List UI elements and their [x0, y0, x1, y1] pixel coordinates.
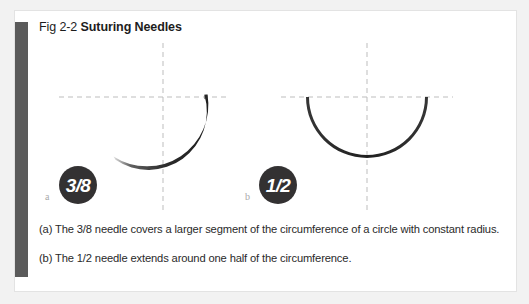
needle-b-group	[281, 43, 453, 211]
badge-three-eighths: 3/8	[59, 166, 97, 204]
caption-b: (b) The 1/2 needle extends around one ha…	[39, 252, 501, 264]
badge-one-half: 1/2	[259, 166, 297, 204]
figure-captions: (a) The 3/8 needle covers a larger segme…	[39, 223, 501, 282]
figure-sublabel-b: b	[245, 191, 250, 202]
figure-panel: Fig 2-2 Suturing Needles	[14, 10, 517, 292]
badge-b-label: 1/2	[266, 176, 291, 195]
needle-a-arc	[114, 95, 209, 170]
needle-a-swage-end	[204, 94, 208, 99]
figure-sublabel-a: a	[45, 191, 49, 202]
badge-a-label: 3/8	[66, 176, 91, 195]
caption-a: (a) The 3/8 needle covers a larger segme…	[39, 223, 501, 235]
